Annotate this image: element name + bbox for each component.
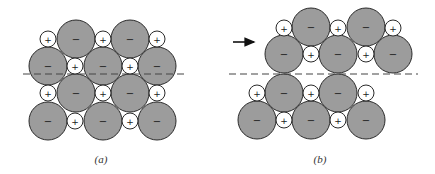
cation-ion: + [40,85,56,101]
minus-sign: − [153,61,161,72]
cation-ion: + [122,113,138,129]
anion-ion: − [292,101,330,139]
plus-sign: + [307,89,315,99]
minus-sign: − [280,88,288,99]
plus-sign: + [153,89,161,99]
cation-ion: + [40,31,56,47]
plus-sign: + [362,89,370,99]
anion-ion: − [374,35,412,73]
anion-ion: − [84,102,122,140]
cation-ion: + [358,85,374,101]
plus-sign: + [126,117,134,127]
cation-ion: + [122,58,138,74]
plus-sign: + [307,50,315,60]
minus-sign: − [44,61,52,72]
plus-sign: + [99,89,107,99]
minus-sign: − [126,88,134,99]
anion-ion: − [57,74,95,112]
cation-ion: + [330,20,346,36]
plus-sign: + [44,89,52,99]
minus-sign: − [72,34,80,45]
minus-sign: − [362,22,370,33]
anion-ion: − [29,102,67,140]
plus-sign: + [334,24,342,34]
plus-sign: + [280,116,288,126]
cation-ion: + [249,85,265,101]
cation-ion: + [276,112,292,128]
minus-sign: − [99,116,107,127]
cation-ion: + [385,20,401,36]
cation-ion: + [67,113,83,129]
cation-ion: + [67,58,83,74]
panel-b-caption: (b) [314,153,327,165]
cation-ion: + [358,46,374,62]
anion-ion: − [111,74,149,112]
ionic-crystal-diagram: −−−−−−−−−−++++++++++ −−−−−−−−−−+++++++++… [0,0,435,174]
minus-sign: − [334,49,342,60]
minus-sign: − [99,61,107,72]
minus-sign: − [334,88,342,99]
minus-sign: − [126,34,134,45]
cation-ion: + [95,85,111,101]
panel-a-caption: (a) [95,153,108,165]
cation-ion: + [276,20,292,36]
cation-ion: + [149,85,165,101]
anion-ion: − [29,47,67,85]
cation-ion: + [330,112,346,128]
anion-ion: − [347,101,385,139]
plus-sign: + [362,50,370,60]
minus-sign: − [280,49,288,60]
panel-a-aligned-layers: −−−−−−−−−−++++++++++ [23,20,186,140]
anion-ion: − [138,102,176,140]
plus-sign: + [126,62,134,72]
plus-sign: + [99,35,107,45]
cation-ion: + [95,31,111,47]
anion-ion: − [265,35,303,73]
minus-sign: − [389,49,397,60]
minus-sign: − [72,88,80,99]
plus-sign: + [44,35,52,45]
plus-sign: + [280,24,288,34]
plus-sign: + [253,89,261,99]
plus-sign: + [334,116,342,126]
cation-ion: + [303,46,319,62]
minus-sign: − [44,116,52,127]
minus-sign: − [307,22,315,33]
anion-ion: − [238,101,276,139]
plus-sign: + [71,117,79,127]
minus-sign: − [362,115,370,126]
minus-sign: − [153,116,161,127]
cation-ion: + [303,85,319,101]
anion-ion: − [319,35,357,73]
plus-sign: + [153,35,161,45]
minus-sign: − [253,115,261,126]
plus-sign: + [71,62,79,72]
cation-ion: + [149,31,165,47]
minus-sign: − [307,115,315,126]
panel-b-shifted-layers: −−−−−−−−−−++++++++++ [229,8,418,139]
plus-sign: + [389,24,397,34]
